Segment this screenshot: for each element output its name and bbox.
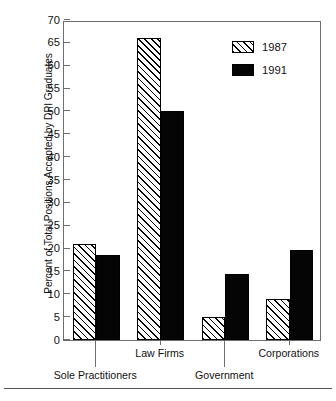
legend: 1987 1991 [232,38,287,84]
x-group-tick-corporations [289,341,290,345]
y-tick-10: 10 [64,293,70,294]
x-axis-label-corporations: Corporations [258,347,319,359]
x-group-tick-sole-practitioners [95,341,96,367]
bar-corporations-1991 [290,250,314,341]
y-tick-label-40: 40 [34,150,60,165]
y-tick-30: 30 [64,202,70,203]
legend-item-1987: 1987 [232,38,287,56]
y-tick-label-45: 45 [34,127,60,142]
footer-divider [4,388,332,389]
y-tick-50: 50 [64,110,70,111]
legend-swatch-hatched-icon [232,41,254,53]
x-group-tick-government [224,341,225,367]
x-axis-label-law-firms: Law Firms [135,347,184,359]
y-tick-label-35: 35 [34,173,60,188]
y-tick-65: 65 [64,42,70,43]
y-tick-5: 5 [64,316,70,317]
y-tick-label-20: 20 [34,241,60,256]
y-tick-70: 70 [64,19,70,20]
bar-sole-practitioners-1991 [96,255,120,340]
y-tick-40: 40 [64,156,70,157]
y-tick-20: 20 [64,248,70,249]
legend-label-1987: 1987 [262,41,287,53]
x-axis-label-sole-practitioners: Sole Practitioners [54,369,137,381]
y-tick-label-65: 65 [34,35,60,50]
legend-item-1991: 1991 [232,61,287,79]
y-tick-0: 0 [64,339,70,340]
legend-swatch-solid-icon [232,64,254,76]
x-group-tick-law-firms [160,341,161,345]
y-tick-45: 45 [64,133,70,134]
y-tick-label-50: 50 [34,104,60,119]
y-tick-25: 25 [64,225,70,226]
bar-corporations-1987 [266,299,290,340]
y-tick-label-0: 0 [34,333,60,348]
y-tick-label-10: 10 [34,287,60,302]
y-tick-label-15: 15 [34,264,60,279]
legend-label-1991: 1991 [262,64,287,76]
bar-law-firms-1991 [161,111,185,340]
bar-sole-practitioners-1987 [73,244,97,340]
bar-law-firms-1987 [137,38,161,340]
y-tick-label-25: 25 [34,218,60,233]
y-tick-35: 35 [64,179,70,180]
y-tick-label-5: 5 [34,310,60,325]
bar-chart-figure: Percent of Total Positions Accepted by D… [0,0,336,401]
y-tick-label-60: 60 [34,58,60,73]
x-axis-label-government: Government [195,369,253,381]
y-tick-15: 15 [64,270,70,271]
y-tick-60: 60 [64,65,70,66]
y-tick-label-70: 70 [34,13,60,28]
y-tick-label-55: 55 [34,81,60,96]
bar-government-1987 [202,317,226,340]
y-tick-55: 55 [64,88,70,89]
bar-government-1991 [225,274,249,340]
y-tick-label-30: 30 [34,195,60,210]
